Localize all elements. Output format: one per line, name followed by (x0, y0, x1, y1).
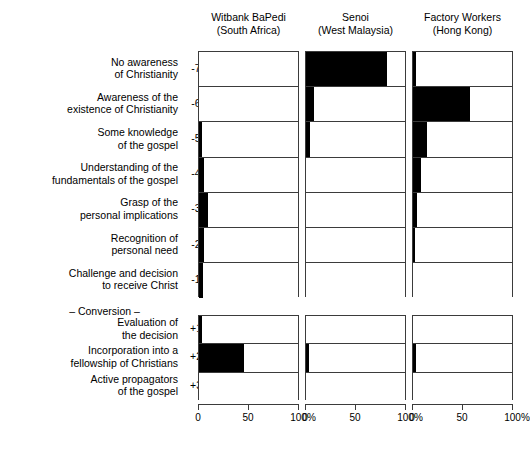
bar-segment (306, 344, 309, 371)
row-label-line2: personal need (0, 244, 178, 257)
plot-panel-upper-3 (412, 51, 513, 297)
bar-row (413, 87, 512, 122)
bar-row (199, 122, 298, 157)
x-axis-1 (198, 404, 299, 411)
axis-tick (412, 404, 413, 410)
row-label-line1: Challenge and decision (69, 267, 178, 279)
axis-tick (462, 404, 463, 410)
axis-tick (248, 404, 249, 410)
row-label-line2: of the gospel (0, 385, 178, 398)
row-label-line1: Active propagators (90, 373, 178, 385)
column-header-name: Witbank BaPedi (211, 11, 286, 23)
row-label-line1: Recognition of (111, 232, 178, 244)
column-header-name: Factory Workers (424, 11, 501, 23)
bar-row (199, 158, 298, 193)
row-label-line1: Awareness of the (97, 91, 178, 103)
axis-tick-label: 0 (302, 412, 308, 423)
bar-segment (199, 158, 204, 192)
column-header-1: Witbank BaPedi(South Africa) (189, 11, 309, 37)
axis-tick-label: 100% (504, 412, 530, 423)
plot-panel-lower-3 (412, 315, 513, 400)
row-label-line1: No awareness (111, 56, 178, 68)
bar-row (199, 344, 298, 372)
row-label-line1: Evaluation of (117, 316, 178, 328)
row-label-line2: to receive Christ (0, 279, 178, 292)
axis-tick (405, 404, 406, 410)
axis-tick (298, 404, 299, 410)
bar-row (413, 344, 512, 372)
row-label-+3: Active propagatorsof the gospel (0, 373, 178, 398)
column-header-2: Senoi(West Malaysia) (296, 11, 416, 37)
axis-tick (305, 404, 306, 410)
axis-tick-label: 0 (195, 412, 201, 423)
x-axis-labels-1: 050100% (198, 412, 299, 424)
bar-segment (199, 122, 202, 156)
axis-tick (512, 404, 513, 410)
bar-row (306, 373, 405, 401)
plot-panel-lower-2 (305, 315, 406, 400)
bar-row (306, 228, 405, 263)
row-label-line2: of Christianity (0, 68, 178, 81)
row-label-+2: Incorporation into afellowship of Christ… (0, 344, 178, 369)
bar-segment (413, 228, 415, 262)
bar-row (199, 193, 298, 228)
bar-segment (413, 122, 427, 156)
column-header-region: (West Malaysia) (296, 24, 416, 37)
bar-segment (199, 316, 202, 343)
bar-row (306, 316, 405, 344)
bar-segment (199, 193, 208, 227)
row-label-line2: the decision (0, 329, 178, 342)
bar-segment (413, 193, 417, 227)
row-label--5: Some knowledgeof the gospel (0, 126, 178, 151)
bar-segment (413, 158, 421, 192)
row-label-line1: Grasp of the (120, 196, 178, 208)
x-axis-2 (305, 404, 406, 411)
row-label-line1: Incorporation into a (88, 344, 178, 356)
bar-row (413, 228, 512, 263)
bar-row (199, 228, 298, 263)
row-label--6: Awareness of theexistence of Christianit… (0, 91, 178, 116)
bar-segment (413, 87, 470, 121)
bar-segment (413, 344, 416, 371)
bar-row (413, 52, 512, 87)
row-label-line2: of the gospel (0, 139, 178, 152)
bar-row (199, 373, 298, 401)
row-label--4: Understanding of thefundamentals of the … (0, 161, 178, 186)
bar-segment (199, 263, 203, 298)
row-label-+1: Evaluation ofthe decision (0, 316, 178, 341)
x-axis-labels-3: 050100% (412, 412, 513, 424)
bar-segment (199, 344, 244, 371)
bar-row (199, 316, 298, 344)
axis-tick-label: 50 (349, 412, 360, 423)
bar-segment (306, 52, 387, 86)
axis-tick (355, 404, 356, 410)
column-header-name: Senoi (342, 11, 369, 23)
row-label--2: Recognition ofpersonal need (0, 232, 178, 257)
column-header-region: (Hong Kong) (403, 24, 523, 37)
bar-segment (199, 228, 204, 262)
axis-tick (198, 404, 199, 410)
row-label--7: No awarenessof Christianity (0, 56, 178, 81)
bar-row (413, 263, 512, 298)
row-label-line2: fundamentals of the gospel (0, 174, 178, 187)
row-label-line1: Understanding of the (81, 161, 178, 173)
x-axis-labels-2: 050100% (305, 412, 406, 424)
bar-row (413, 193, 512, 228)
plot-panel-upper-1 (198, 51, 299, 297)
row-label-line2: existence of Christianity (0, 103, 178, 116)
plot-panel-lower-1 (198, 315, 299, 400)
bar-row (306, 52, 405, 87)
bar-row (199, 52, 298, 87)
bar-row (413, 122, 512, 157)
axis-tick-label: 0 (409, 412, 415, 423)
bar-segment (413, 52, 416, 86)
bar-segment (306, 122, 310, 156)
x-axis-3 (412, 404, 513, 411)
bar-row (306, 122, 405, 157)
bar-row (306, 87, 405, 122)
bar-row (413, 316, 512, 344)
plot-panel-upper-2 (305, 51, 406, 297)
axis-tick-label: 50 (242, 412, 253, 423)
column-header-3: Factory Workers(Hong Kong) (403, 11, 523, 37)
